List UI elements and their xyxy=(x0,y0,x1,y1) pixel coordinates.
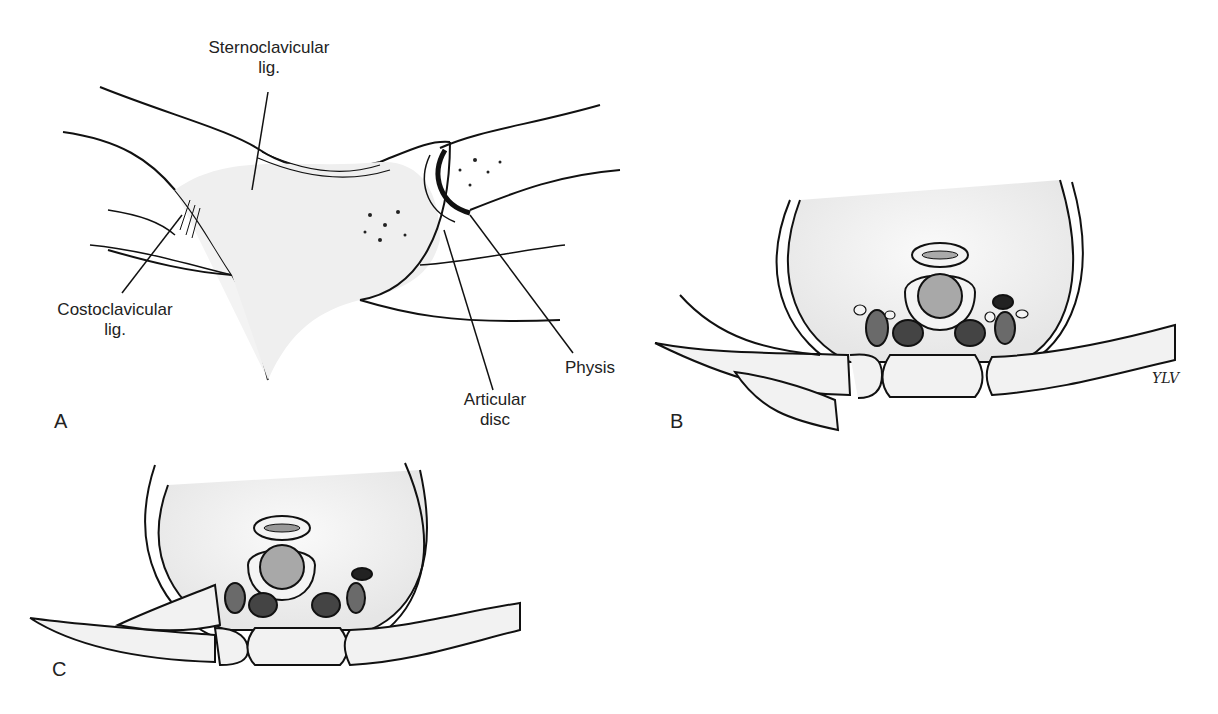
label-line: Articular xyxy=(450,390,540,410)
label-physis: Physis xyxy=(550,358,630,378)
label-line: Sternoclavicular xyxy=(194,38,344,58)
panel-c-drawing xyxy=(30,463,520,665)
label-sternoclavicular-lig: Sternoclavicular lig. xyxy=(194,38,344,78)
label-line: Costoclavicular xyxy=(40,300,190,320)
label-articular-disc: Articular disc xyxy=(450,390,540,430)
panel-label-b: B xyxy=(670,410,683,433)
panel-label-c: C xyxy=(52,658,66,681)
panel-b-drawing xyxy=(655,180,1175,430)
panel-label-a: A xyxy=(54,410,67,433)
label-line: disc xyxy=(450,410,540,430)
label-costoclavicular-lig: Costoclavicular lig. xyxy=(40,300,190,340)
label-line: lig. xyxy=(194,58,344,78)
figure-drawing xyxy=(0,0,1218,714)
panel-a-drawing xyxy=(63,87,620,390)
label-line: Physis xyxy=(550,358,630,378)
label-line: lig. xyxy=(40,320,190,340)
artist-signature: YLV xyxy=(1152,370,1179,386)
